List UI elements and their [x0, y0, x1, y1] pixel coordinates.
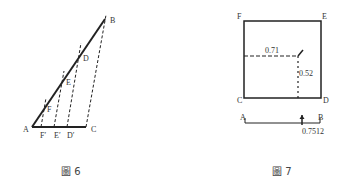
point-d-label: D	[83, 54, 89, 63]
point-e-label: E	[66, 78, 71, 87]
figure-6: B D E F A C F′ E′ D′ 圖 6	[0, 0, 175, 191]
point-a-label: A	[240, 113, 246, 122]
figure-7-diagram: F E C D A B 0.71 0.52 0.7512	[175, 0, 350, 191]
point-e-label: E	[322, 12, 327, 21]
point-c-label: C	[91, 125, 96, 134]
point-f-label: F	[237, 12, 242, 21]
point-f-label: F	[47, 105, 52, 114]
point-e-prime-label: E′	[54, 131, 61, 140]
value-horizontal-label: 0.71	[265, 46, 279, 55]
figure-6-caption: 圖 6	[61, 163, 81, 178]
value-result-label: 0.7512	[302, 127, 324, 136]
point-f-prime-label: F′	[40, 131, 46, 140]
figure-7: F E C D A B 0.71 0.52 0.7512 圖 7	[175, 0, 350, 191]
figure-7-caption: 圖 7	[272, 163, 292, 178]
point-d-label: D	[323, 96, 329, 105]
point-d-prime-label: D′	[67, 131, 75, 140]
point-b-label: B	[318, 113, 323, 122]
value-vertical-label: 0.52	[299, 69, 313, 78]
point-b-label: B	[110, 16, 115, 25]
point-a-label: A	[23, 125, 29, 134]
point-c-label: C	[237, 96, 242, 105]
figure-6-diagram: B D E F A C F′ E′ D′	[0, 0, 175, 191]
